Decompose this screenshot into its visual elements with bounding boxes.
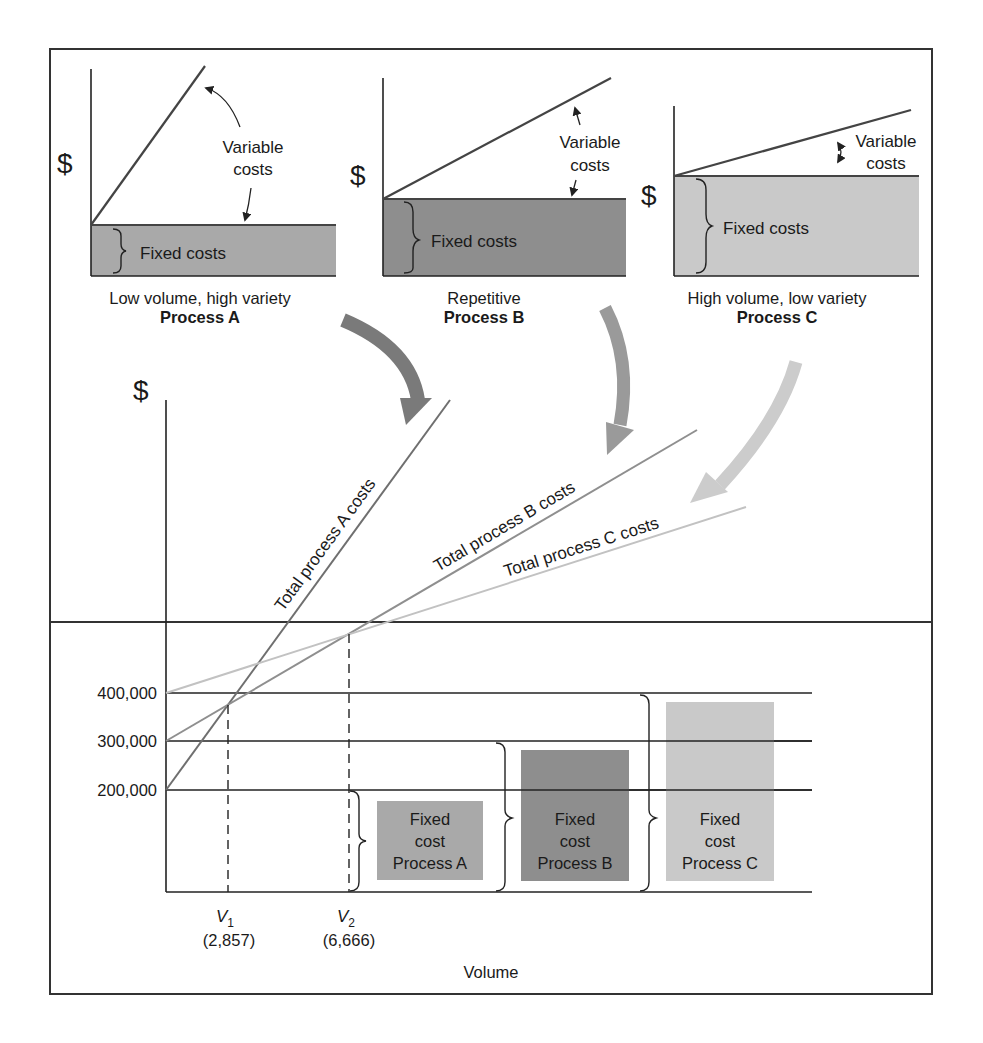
fixed-box-c-label: Process C	[682, 854, 758, 872]
variable-arrow-icon	[572, 180, 576, 195]
double-arrow-icon	[838, 143, 841, 162]
variable-label: Variable	[222, 138, 283, 157]
brace-b-icon	[496, 743, 512, 891]
line-label-a: Total process A costs	[271, 475, 380, 615]
variable-arrow-icon	[245, 188, 251, 220]
y-label-dollar: $	[641, 180, 657, 211]
v2-label: V2	[337, 907, 355, 930]
variable-label: costs	[866, 154, 906, 173]
total-cost-line-a	[91, 66, 205, 225]
flow-arrow-a-head-icon	[400, 398, 432, 425]
process-caption: Repetitive	[447, 289, 520, 307]
v1-label: V1	[216, 907, 234, 930]
y-label-dollar: $	[350, 160, 366, 191]
fixed-costs-label: Fixed costs	[140, 244, 226, 263]
main-chart: Fixed cost Process A Fixed cost Process …	[97, 375, 812, 981]
flow-arrow-b-icon	[605, 308, 624, 425]
process-name: Process B	[444, 308, 525, 326]
v2-value: (6,666)	[323, 931, 375, 949]
variable-label: Variable	[559, 133, 620, 152]
panel-process-a: $ Variable costs Fixed costs Low volume,…	[57, 66, 336, 326]
fixed-box-c-label: cost	[705, 832, 736, 850]
y-tick-400000: 400,000	[97, 684, 157, 702]
v1-value: (2,857)	[203, 931, 255, 949]
main-x-label: Volume	[463, 963, 518, 981]
process-name: Process C	[737, 308, 818, 326]
variable-label: Variable	[855, 132, 916, 151]
total-process-b-line	[166, 430, 697, 741]
panel-process-b: $ Variable costs Fixed costs Repetitive …	[350, 78, 626, 326]
variable-label: costs	[233, 160, 273, 179]
flow-arrow-c-icon	[720, 362, 796, 485]
fixed-costs-label: Fixed costs	[431, 232, 517, 251]
fixed-box-c-label: Fixed	[700, 810, 740, 828]
flow-arrows	[343, 308, 796, 503]
variable-arrow-icon	[206, 88, 240, 127]
fixed-box-b-label: Fixed	[555, 810, 595, 828]
variable-arrow-icon	[575, 108, 580, 125]
y-label-dollar: $	[57, 148, 73, 179]
process-caption: Low volume, high variety	[109, 289, 291, 307]
flow-arrow-b-head-icon	[606, 422, 634, 455]
brace-c-icon	[640, 695, 656, 891]
fixed-costs-label: Fixed costs	[723, 219, 809, 238]
crossover-figure: $ Variable costs Fixed costs Low volume,…	[0, 0, 983, 1043]
flow-arrow-a-icon	[343, 320, 418, 400]
fixed-box-a-label: cost	[415, 832, 446, 850]
fixed-box-b-label: cost	[560, 832, 591, 850]
main-y-label: $	[133, 375, 149, 406]
fixed-box-b-label: Process B	[537, 854, 612, 872]
process-caption: High volume, low variety	[688, 289, 868, 307]
total-process-c-line	[166, 507, 746, 693]
variable-label: costs	[570, 156, 610, 175]
total-process-a-line	[166, 400, 450, 790]
y-tick-300000: 300,000	[97, 732, 157, 750]
process-name: Process A	[160, 308, 240, 326]
y-tick-200000: 200,000	[97, 781, 157, 799]
fixed-box-a-label: Fixed	[410, 810, 450, 828]
panel-process-c: $ Variable costs Fixed costs High volume…	[641, 106, 919, 326]
fixed-box-a-label: Process A	[393, 854, 467, 872]
brace-a-icon	[350, 791, 366, 891]
